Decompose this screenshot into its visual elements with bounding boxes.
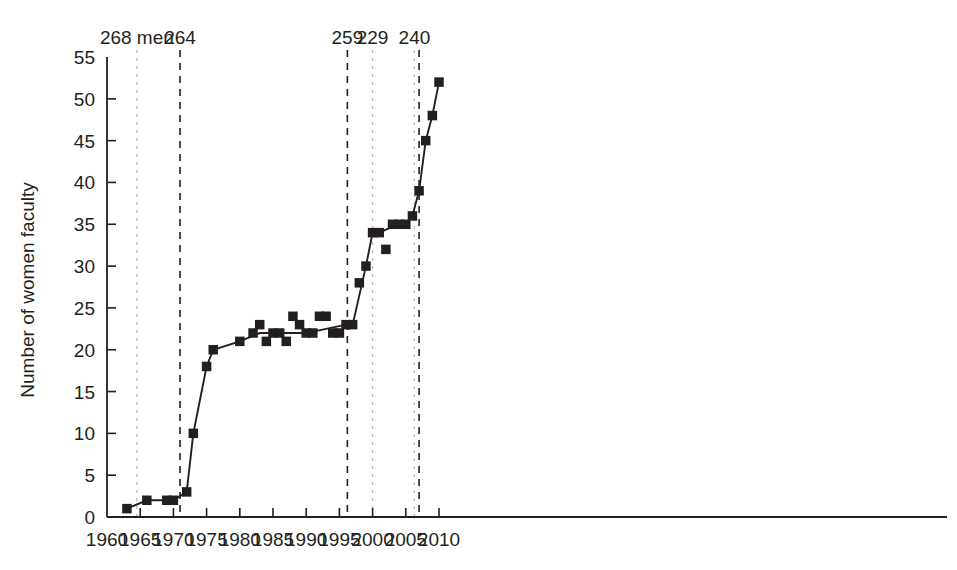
data-point-marker [248, 328, 258, 338]
y-axis-title-group: Number of women faculty [17, 182, 38, 398]
annotation-label-3: 229 [357, 27, 389, 48]
x-axis-tick-labels: 1960196519701975198019851990199520002005… [86, 529, 460, 550]
data-point-marker [434, 77, 444, 87]
data-point-marker [308, 328, 318, 338]
data-point-marker [275, 328, 285, 338]
data-point-marker [282, 337, 292, 347]
data-point-marker [235, 337, 245, 347]
y-tick-label: 25 [74, 298, 95, 319]
data-point-marker [208, 345, 218, 355]
data-point-marker [295, 320, 305, 330]
y-tick-label: 40 [74, 172, 95, 193]
data-line [127, 82, 439, 509]
data-point-marker [414, 186, 424, 196]
data-point-marker [142, 496, 152, 506]
data-point-marker [421, 136, 431, 146]
y-tick-label: 0 [84, 507, 95, 528]
y-tick-label: 15 [74, 382, 95, 403]
data-point-marker [361, 261, 371, 271]
data-point-marker [321, 312, 331, 322]
data-point-marker [428, 111, 438, 121]
data-point-marker [255, 320, 265, 330]
y-tick-label: 35 [74, 214, 95, 235]
data-point-marker [348, 320, 358, 330]
y-tick-label: 55 [74, 47, 95, 68]
line-chart: 0510152025303540455055 19601965197019751… [0, 0, 957, 570]
data-point-marker [381, 245, 391, 255]
data-point-marker [374, 228, 384, 238]
data-point-marker [122, 504, 132, 514]
y-tick-label: 45 [74, 131, 95, 152]
y-tick-label: 5 [84, 465, 95, 486]
y-tick-label: 30 [74, 256, 95, 277]
data-point-marker [262, 337, 272, 347]
y-axis-tick-labels: 0510152025303540455055 [74, 47, 95, 528]
y-axis [107, 57, 116, 517]
y-tick-label: 20 [74, 340, 95, 361]
annotation-label-1: 264 [164, 27, 196, 48]
annotation-labels: 268 men264259229240 [100, 27, 430, 48]
data-point-marker [408, 211, 418, 221]
data-markers [122, 77, 444, 513]
data-point-marker [401, 220, 411, 230]
y-tick-label: 50 [74, 89, 95, 110]
data-point-marker [169, 496, 179, 506]
data-point-marker [288, 312, 298, 322]
annotation-label-0: 268 men [100, 27, 174, 48]
y-tick-label: 10 [74, 423, 95, 444]
annotation-lines [137, 50, 419, 517]
data-point-marker [182, 487, 192, 497]
data-point-marker [189, 429, 199, 439]
annotation-label-4: 240 [399, 27, 431, 48]
x-tick-label: 2010 [418, 529, 460, 550]
y-axis-title: Number of women faculty [17, 182, 38, 398]
data-point-marker [335, 328, 345, 338]
data-point-marker [355, 278, 365, 288]
series-line [127, 82, 439, 509]
x-axis [107, 508, 947, 517]
data-point-marker [202, 362, 212, 372]
chart-figure: 0510152025303540455055 19601965197019751… [0, 0, 957, 570]
